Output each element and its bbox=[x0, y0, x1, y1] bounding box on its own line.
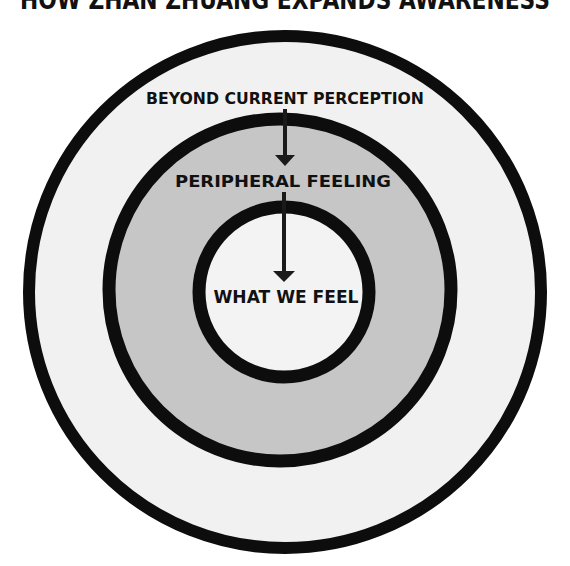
label-peripheral-feeling: PERIPHERAL FEELING bbox=[175, 172, 391, 191]
label-what-we-feel: WHAT WE FEEL bbox=[214, 286, 359, 307]
diagram-title: HOW ZHAN ZHUANG EXPANDS AWARENESS bbox=[20, 0, 550, 15]
label-beyond-current-perception: BEYOND CURRENT PERCEPTION bbox=[146, 89, 424, 108]
awareness-diagram: HOW ZHAN ZHUANG EXPANDS AWARENESS BEYOND… bbox=[0, 0, 570, 566]
